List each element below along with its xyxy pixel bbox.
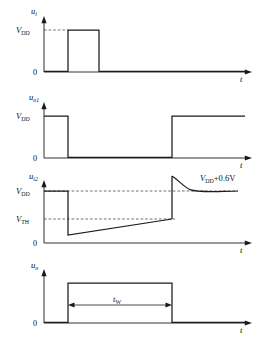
uo-width-arrow-left-head: [68, 303, 75, 308]
panel-uo: tW uo 0 t: [31, 260, 252, 335]
uo-time-label: t: [240, 325, 243, 335]
ui-vdd-label: VDD: [16, 25, 31, 36]
ui-waveform: [44, 30, 245, 71]
ui2-signal-label: ui2: [29, 171, 38, 182]
ui2-vdd-label: VDD: [16, 186, 31, 197]
uo1-time-label: t: [240, 160, 243, 170]
ui2-time-label: t: [240, 245, 243, 255]
ui-x-axis-arrowhead: [245, 69, 252, 74]
ui-signal-label: ui: [31, 6, 37, 17]
uo-signal-label: uo: [31, 260, 38, 271]
ui2-y-axis-arrowhead: [41, 180, 46, 187]
ui2-vth-label: VTH: [16, 214, 30, 225]
ui-y-axis-arrowhead: [41, 16, 46, 23]
panel-uo1: uo1 VDD 0 t: [16, 92, 252, 170]
uo-width-label: tW: [113, 294, 121, 305]
uo1-waveform: [44, 116, 245, 157]
uo1-vdd-label: VDD: [16, 111, 31, 122]
waveform-figure: ui VDD 0 t uo1 VDD 0 t ui2 VDD VTH 0 t: [0, 0, 261, 345]
uo-waveform: [44, 283, 245, 322]
uo1-zero-label: 0: [33, 154, 37, 163]
panel-ui2: ui2 VDD VTH 0 t VDD+0.6V: [16, 171, 252, 255]
uo1-signal-label: uo1: [29, 92, 39, 103]
uo-width-arrow-right-head: [166, 303, 173, 308]
ui2-x-axis-arrowhead: [245, 240, 252, 245]
panel-ui: ui VDD 0 t: [16, 6, 252, 84]
uo-zero-label: 0: [33, 319, 37, 328]
uo1-x-axis-arrowhead: [245, 155, 252, 160]
uo-x-axis-arrowhead: [245, 320, 252, 325]
ui-time-label: t: [240, 74, 243, 84]
ui2-waveform-ramp: [44, 191, 172, 235]
ui2-peak-annotation: VDD+0.6V: [200, 173, 236, 184]
ui-zero-label: 0: [33, 68, 37, 77]
ui2-zero-label: 0: [33, 239, 37, 248]
uo-y-axis-arrowhead: [41, 269, 46, 276]
uo1-y-axis-arrowhead: [41, 102, 46, 109]
